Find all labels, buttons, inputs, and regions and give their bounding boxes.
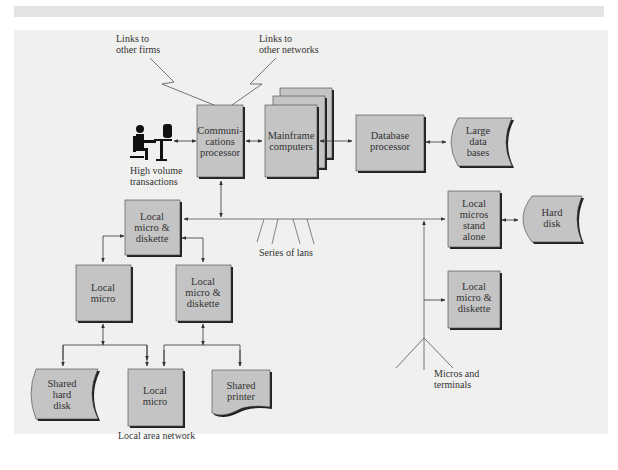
node-communications-processor: Communi- cations processor	[197, 105, 245, 179]
svg-text:cations: cations	[205, 136, 235, 147]
svg-text:Large: Large	[466, 125, 491, 136]
svg-text:Mainframe: Mainframe	[268, 130, 315, 141]
svg-text:High volume: High volume	[130, 165, 183, 176]
svg-text:Links to: Links to	[116, 33, 149, 44]
svg-text:Local: Local	[140, 211, 164, 222]
node-shared-printer: Shared printer	[212, 370, 272, 417]
svg-text:Local: Local	[462, 198, 486, 209]
svg-text:micro &: micro &	[134, 222, 169, 233]
svg-text:Shared: Shared	[47, 378, 77, 389]
label-local-area-network: Local area network	[118, 430, 195, 441]
terminals-tripod	[396, 338, 453, 370]
node-mainframe-computers: Mainframe computers	[265, 88, 334, 179]
svg-text:micro: micro	[91, 293, 116, 304]
svg-text:Local: Local	[191, 276, 215, 287]
svg-text:Hard: Hard	[542, 207, 564, 218]
svg-text:micro: micro	[143, 396, 168, 407]
svg-text:Local: Local	[462, 281, 486, 292]
link-networks-line	[232, 58, 276, 105]
node-large-data-bases: Large data bases	[451, 118, 514, 168]
svg-text:Database: Database	[371, 130, 410, 141]
svg-text:Shared: Shared	[226, 380, 256, 391]
svg-text:Links to: Links to	[259, 33, 292, 44]
node-local-micro-diskette-right: Local micro & diskette	[448, 271, 502, 330]
svg-text:diskette: diskette	[187, 298, 220, 309]
svg-text:other networks: other networks	[259, 44, 319, 55]
node-local-micro-left: Local micro	[76, 265, 133, 323]
svg-text:diskette: diskette	[458, 303, 491, 314]
svg-text:Communi-: Communi-	[197, 125, 243, 136]
svg-text:Local: Local	[91, 282, 115, 293]
svg-text:printer: printer	[227, 391, 255, 402]
svg-text:processor: processor	[370, 141, 411, 152]
label-high-volume: High volume transactions	[130, 165, 183, 187]
svg-text:processor: processor	[200, 147, 241, 158]
svg-text:Micros and: Micros and	[434, 368, 479, 379]
svg-text:other firms: other firms	[116, 44, 160, 55]
svg-text:data: data	[469, 136, 487, 147]
svg-text:transactions: transactions	[130, 176, 178, 187]
node-database-processor: Database processor	[356, 115, 426, 173]
svg-text:terminals: terminals	[434, 379, 471, 390]
svg-text:disk: disk	[543, 218, 561, 229]
node-local-micros-stand-alone: Local micros stand alone	[448, 191, 502, 249]
label-series-of-lans: Series of lans	[259, 247, 313, 258]
node-local-micro-bottom: Local micro	[128, 369, 185, 428]
node-local-micro-diskette-top: Local micro & diskette	[125, 200, 182, 257]
svg-text:Local: Local	[143, 385, 167, 396]
node-shared-hard-disk: Shared hard disk	[31, 369, 100, 421]
svg-text:micro &: micro &	[185, 287, 220, 298]
svg-text:micro &: micro &	[456, 292, 491, 303]
label-links-firms: Links to other firms	[116, 33, 160, 55]
series-of-lans-ticks	[257, 219, 314, 244]
svg-text:hard: hard	[53, 389, 72, 400]
svg-text:alone: alone	[463, 231, 486, 242]
svg-text:diskette: diskette	[136, 233, 169, 244]
svg-text:stand: stand	[463, 220, 486, 231]
svg-text:computers: computers	[269, 141, 313, 152]
svg-text:micros: micros	[460, 209, 489, 220]
network-diagram: Links to other firms Links to other netw…	[0, 0, 618, 470]
label-links-networks: Links to other networks	[259, 33, 319, 55]
svg-text:disk: disk	[53, 400, 71, 411]
svg-text:bases: bases	[467, 147, 490, 158]
label-micros-terminals: Micros and terminals	[434, 368, 479, 390]
person-at-terminal-icon	[130, 124, 172, 161]
node-local-micro-diskette-mid: Local micro & diskette	[176, 265, 233, 323]
link-firms-line	[150, 58, 214, 105]
node-hard-disk: Hard disk	[523, 196, 584, 244]
